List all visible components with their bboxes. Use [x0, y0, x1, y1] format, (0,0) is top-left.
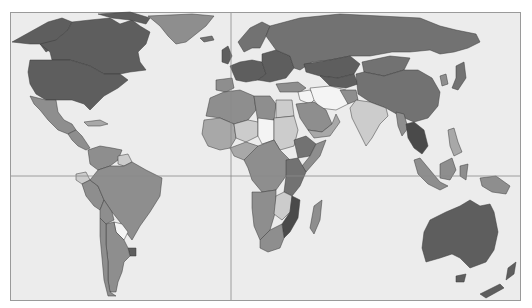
world-map — [0, 0, 532, 308]
region-sudan[interactable] — [274, 116, 298, 150]
choropleth-map — [0, 0, 532, 308]
region-egypt[interactable] — [276, 100, 294, 118]
region-chad[interactable] — [258, 118, 274, 144]
region-libya[interactable] — [254, 96, 276, 122]
